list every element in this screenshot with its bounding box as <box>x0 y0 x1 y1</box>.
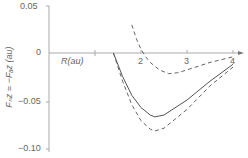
x-tick-label: 3 <box>184 56 189 66</box>
y-tick-label: 0 <box>36 47 41 57</box>
x-tick-label: 2 <box>138 56 143 66</box>
y-tick-label: 0.05 <box>20 1 38 11</box>
upper-dashed-curve <box>132 25 233 74</box>
plot-area <box>0 0 248 158</box>
y-axis-label: Fₙz = −Fₐz (au) <box>4 46 14 107</box>
force-curve-chart: 0.05 0 −0.05 −0.10 1 2 3 4 R(au) Fₙz = −… <box>0 0 248 158</box>
solid-curve <box>113 53 233 117</box>
x-tick-label: 4 <box>230 56 235 66</box>
x-axis-arrow-icon <box>238 51 244 55</box>
x-axis-label: R(au) <box>61 56 84 66</box>
lower-dashed-curve <box>113 53 233 131</box>
y-tick-label: −0.05 <box>18 96 41 106</box>
y-tick-label: −0.10 <box>18 143 41 153</box>
